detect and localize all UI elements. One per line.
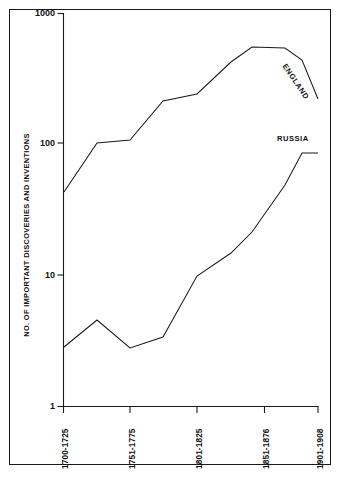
- y-tick-label-1000: 1000: [18, 8, 55, 18]
- y-tick-label-10: 10: [18, 270, 55, 280]
- series-line-england: [64, 47, 318, 192]
- x-tick-label-1801-1825: 1801-1825: [194, 428, 204, 469]
- x-tick-label-1700-1725: 1700-1725: [60, 428, 70, 469]
- x-tick-label-1901-1908: 1901-1908: [315, 428, 325, 469]
- series-line-russia: [64, 153, 318, 348]
- y-tick-label-100: 100: [18, 138, 55, 148]
- x-tick-label-1851-1876: 1851-1876: [261, 428, 271, 469]
- y-tick-label-1: 1: [18, 401, 55, 411]
- y-axis-title: NO. OF IMPORTANT DISCOVERIES AND INVENTI…: [20, 115, 34, 355]
- x-tick-label-1751-1775: 1751-1775: [127, 428, 137, 469]
- chart-figure: NO. OF IMPORTANT DISCOVERIES AND INVENTI…: [0, 0, 343, 483]
- series-label-russia: RUSSIA: [277, 134, 309, 143]
